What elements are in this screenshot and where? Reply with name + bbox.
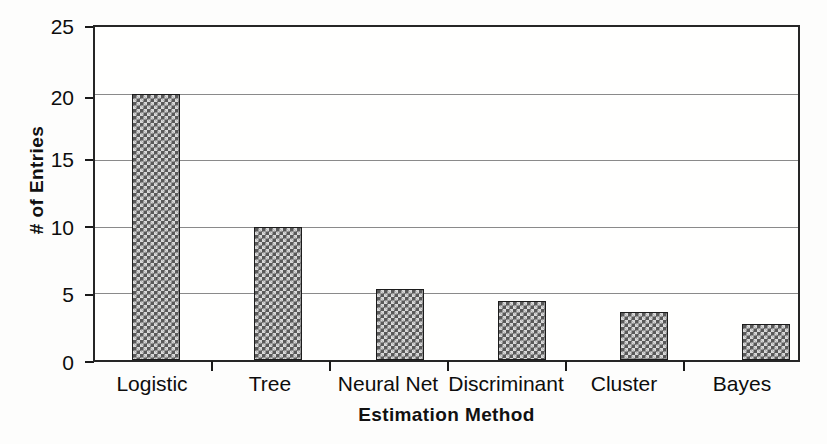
bar-bayes <box>742 324 790 360</box>
bar-neural-net <box>376 289 424 360</box>
x-tick-mark-3 <box>447 361 449 371</box>
x-tick-label-discriminant: Discriminant <box>447 372 565 396</box>
bar-discriminant <box>498 301 546 360</box>
bar-tree <box>254 227 302 360</box>
x-tick-mark-2 <box>329 361 331 371</box>
x-tick-label-bayes: Bayes <box>683 372 801 396</box>
bar-cluster <box>620 312 668 360</box>
y-tick-label-15: 15 <box>34 149 74 170</box>
x-tick-label-neural-net: Neural Net <box>329 372 447 396</box>
x-tick-label-logistic: Logistic <box>93 372 211 396</box>
plot-area <box>93 25 800 362</box>
x-tick-label-tree: Tree <box>211 372 329 396</box>
x-tick-mark-4 <box>565 361 567 371</box>
y-tick-label-25: 25 <box>34 16 74 37</box>
y-tick-label-0: 0 <box>34 352 74 373</box>
x-tick-mark-1 <box>211 361 213 371</box>
y-tick-label-5: 5 <box>34 284 74 305</box>
y-tick-label-10: 10 <box>34 217 74 238</box>
bar-chart-figure: # of Entries 0 5 10 15 20 25 Logistic Tr… <box>0 0 827 444</box>
x-axis-title: Estimation Method <box>93 404 800 426</box>
bar-logistic <box>132 94 180 360</box>
bars-layer <box>95 27 798 360</box>
y-tick-label-20: 20 <box>34 87 74 108</box>
x-tick-label-cluster: Cluster <box>565 372 683 396</box>
x-tick-mark-5 <box>683 361 685 371</box>
